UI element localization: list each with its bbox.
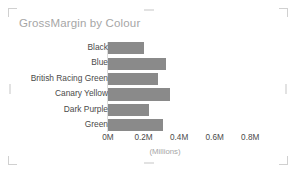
- bar-track: [108, 103, 290, 118]
- bar[interactable]: [108, 58, 166, 70]
- chart-category-row[interactable]: British Racing Green: [0, 72, 296, 87]
- resize-handle-bottom-center[interactable]: [144, 162, 154, 164]
- category-label: Blue: [91, 57, 108, 67]
- x-axis-tick-label: 0.8M: [241, 133, 259, 142]
- resize-handle-top-center[interactable]: [144, 9, 154, 11]
- resize-handle-top-left[interactable]: [8, 8, 17, 17]
- chart-category-row[interactable]: Black: [0, 41, 296, 56]
- bar-track: [108, 118, 290, 133]
- bar[interactable]: [108, 88, 170, 100]
- x-axis-tick-label: 0M: [102, 133, 113, 142]
- bar[interactable]: [108, 119, 163, 131]
- x-axis: 0M0.2M0.4M0.6M0.8M: [108, 133, 268, 145]
- resize-handle-bottom-right[interactable]: [279, 156, 288, 165]
- x-axis-caption: (Millions): [0, 147, 296, 156]
- bar-track: [108, 87, 290, 102]
- resize-handle-top-right[interactable]: [279, 8, 288, 17]
- bar[interactable]: [108, 42, 144, 54]
- bar[interactable]: [108, 104, 149, 116]
- category-label: Dark Purple: [64, 104, 108, 114]
- bar-track: [108, 72, 290, 87]
- x-axis-tick-label: 0.6M: [206, 133, 224, 142]
- bar[interactable]: [108, 73, 158, 85]
- chart-visual-container[interactable]: GrossMargin by Colour BlackBlueBritish R…: [0, 0, 296, 173]
- bar-track: [108, 56, 290, 71]
- chart-title: GrossMargin by Colour: [19, 17, 140, 29]
- plot-area: BlackBlueBritish Racing GreenCanary Yell…: [0, 41, 296, 133]
- chart-category-row[interactable]: Green: [0, 118, 296, 133]
- x-axis-tick-label: 0.4M: [170, 133, 188, 142]
- category-label: Black: [88, 42, 108, 52]
- category-label: Green: [85, 119, 108, 129]
- chart-category-row[interactable]: Canary Yellow: [0, 87, 296, 102]
- category-label: Canary Yellow: [55, 88, 108, 98]
- category-label: British Racing Green: [31, 73, 108, 83]
- bar-track: [108, 41, 290, 56]
- chart-category-row[interactable]: Blue: [0, 56, 296, 71]
- x-axis-tick-label: 0.2M: [134, 133, 152, 142]
- resize-handle-bottom-left[interactable]: [8, 156, 17, 165]
- chart-category-row[interactable]: Dark Purple: [0, 103, 296, 118]
